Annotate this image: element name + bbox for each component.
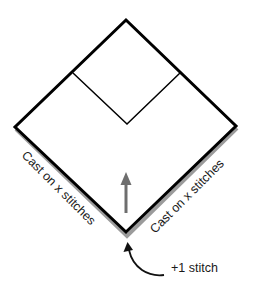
knitting-diagram: Cast on x stitches Cast on x stitches +1…	[0, 0, 253, 288]
curved-arrow-icon	[124, 242, 165, 275]
increase-label: +1 stitch	[171, 261, 218, 275]
